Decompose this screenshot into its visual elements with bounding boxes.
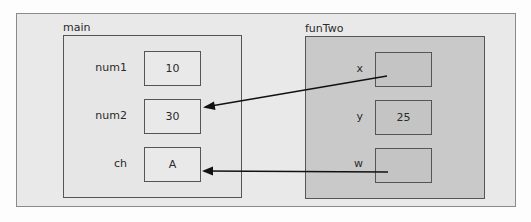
arrowhead-ch-icon (202, 167, 213, 176)
arrow-w-to-ch (204, 171, 388, 172)
arrowhead-num2-icon (203, 102, 216, 111)
arrow-x-to-num2 (205, 76, 387, 107)
reference-arrows (0, 0, 531, 222)
